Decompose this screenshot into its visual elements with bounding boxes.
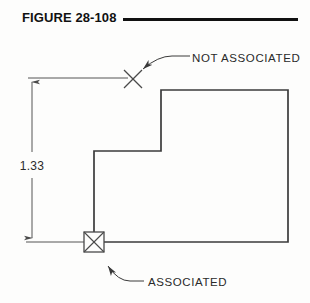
dimension-value-height: 1.33 <box>20 159 45 173</box>
annotation-label-associated: ASSOCIATED <box>148 276 227 288</box>
annotation-not-associated: NOT ASSOCIATED <box>124 52 300 88</box>
part-outline <box>94 90 288 242</box>
leader-line-not-associated <box>143 56 190 69</box>
dimension-overall-height: 1.33 <box>20 78 128 242</box>
leader-line-associated <box>108 266 144 281</box>
annotation-associated: ASSOCIATED <box>84 232 227 288</box>
technical-drawing: 1.33 NOT ASSOCIATED ASSOCIATED <box>0 0 310 303</box>
part-outline-path <box>94 90 288 242</box>
x-mark-icon <box>124 70 142 88</box>
square-x-mark-icon <box>84 232 104 252</box>
annotation-label-not-associated: NOT ASSOCIATED <box>192 52 300 64</box>
figure-page: FIGURE 28-108 1.33 <box>0 0 310 303</box>
